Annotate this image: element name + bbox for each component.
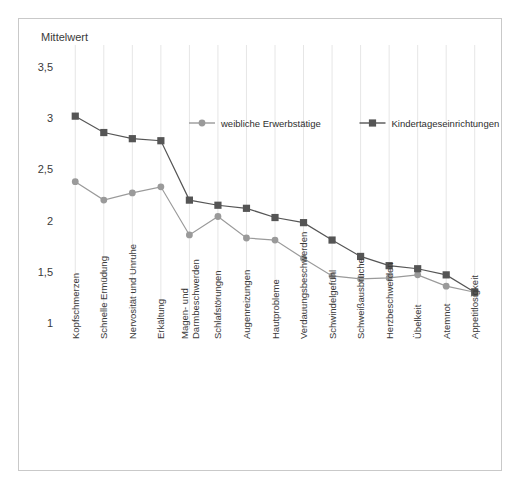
x-category-label: Schnelle Ermüdung [98, 256, 109, 339]
x-category-label: Schlafstörungen [212, 270, 223, 339]
chart-plot-area: Mittelwert11,522,533,5KopfschmerzenSchne… [19, 19, 503, 472]
data-point-marker [100, 197, 107, 204]
line-chart: Mittelwert11,522,533,5KopfschmerzenSchne… [19, 19, 503, 472]
data-point-marker [243, 205, 250, 212]
x-category-label: Schwindelgefühl [327, 270, 338, 339]
data-point-marker [271, 214, 278, 221]
data-point-marker [215, 213, 222, 220]
x-category-label: Schweißausbrüche [355, 258, 366, 339]
data-point-marker [157, 183, 164, 190]
chart-legend: weibliche ErwerbstätigeKindertageseinric… [189, 118, 499, 129]
x-category-label: Hautprobleme [270, 279, 281, 339]
y-tick-label: 2 [47, 215, 53, 227]
y-tick-label: 3,5 [38, 61, 53, 73]
y-tick-label: 1 [47, 317, 53, 329]
data-point-marker [129, 135, 136, 142]
x-category-label: Verdauungsbeschwerden [298, 232, 309, 339]
data-point-marker [186, 232, 193, 239]
legend-marker [199, 120, 206, 127]
x-category-label: Atemnot [441, 303, 452, 339]
x-category-label: Appetitlosigkeit [469, 275, 480, 339]
legend-label: Kindertageseinrichtungen [392, 118, 500, 129]
data-point-marker [72, 113, 79, 120]
data-point-marker [414, 271, 421, 278]
x-category-label: Übelkeit [412, 304, 423, 339]
x-category-label: Augenreizungen [241, 270, 252, 339]
data-point-marker [243, 235, 250, 242]
x-category-label: Magen- und [179, 288, 190, 339]
data-point-marker [300, 219, 307, 226]
x-category-label: Darmbeschwerden [190, 259, 201, 339]
data-point-marker [443, 283, 450, 290]
y-tick-label: 1,5 [38, 266, 53, 278]
data-point-marker [157, 137, 164, 144]
legend-label: weibliche Erwerbstätige [220, 118, 321, 129]
data-point-marker [129, 190, 136, 197]
legend-marker [369, 119, 376, 126]
chart-frame: Mittelwert11,522,533,5KopfschmerzenSchne… [18, 18, 502, 471]
data-point-marker [328, 236, 335, 243]
data-point-marker [414, 265, 421, 272]
data-point-marker [272, 237, 279, 244]
x-category-label: Nervosität und Unruhe [127, 244, 138, 339]
y-axis-title-text: Mittelwert [41, 31, 88, 43]
data-point-marker [186, 197, 193, 204]
y-tick-label: 2,5 [38, 163, 53, 175]
y-tick-label: 3 [47, 112, 53, 124]
data-point-marker [72, 178, 79, 185]
x-category-label: Erkältung [155, 299, 166, 339]
data-point-marker [443, 271, 450, 278]
x-category-label: Herzbeschwerden [384, 262, 395, 339]
y-axis-ticks: 11,522,533,5 [38, 61, 53, 329]
data-point-marker [214, 202, 221, 209]
data-point-marker [100, 129, 107, 136]
y-axis-title: Mittelwert [41, 31, 88, 43]
x-category-label: Kopfschmerzen [70, 273, 81, 339]
